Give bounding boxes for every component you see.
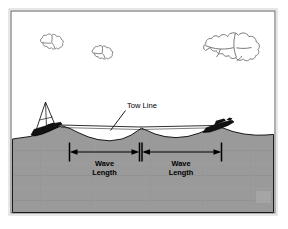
- water-surface-fill: [13, 126, 274, 213]
- wave-length-left-label-line2: Length: [92, 168, 117, 177]
- wave-length-right-label-line2: Length: [169, 168, 194, 177]
- water-highlight-patch: [256, 191, 271, 203]
- figure-container: Tow Line: [0, 0, 288, 229]
- wave-length-left-label-line1: Wave: [95, 159, 114, 168]
- wave-length-right-label-line1: Wave: [171, 159, 190, 168]
- tow-line-label: Tow Line: [127, 101, 157, 110]
- wave-length-diagram: Tow Line: [0, 0, 288, 229]
- water-region: [13, 126, 274, 213]
